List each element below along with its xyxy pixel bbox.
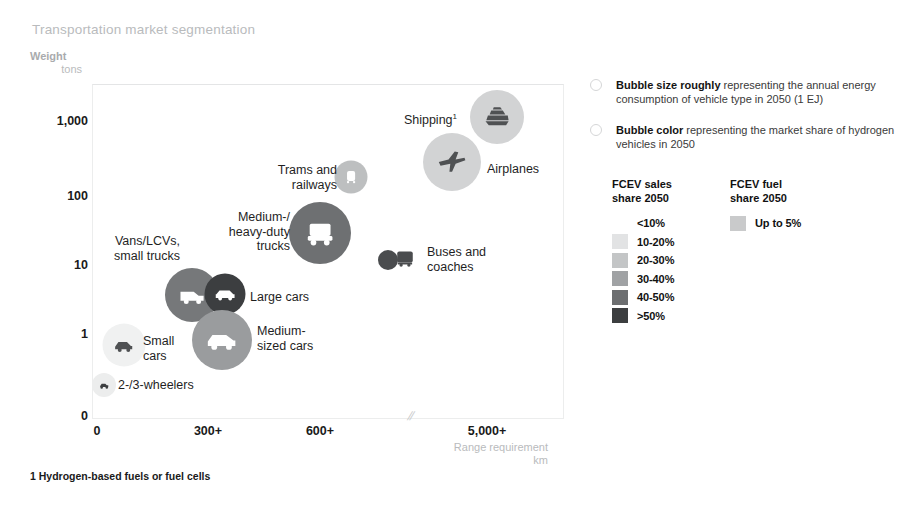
fcev-fuel-heading: FCEV fuel share 2050 — [730, 178, 860, 205]
x-axis-title-unit: km — [398, 454, 548, 467]
legend-scale-row: <10% — [612, 214, 727, 233]
bubble-truck[interactable] — [289, 202, 351, 264]
ship-icon — [483, 103, 511, 131]
bubble-label: Medium- sized cars — [257, 324, 313, 353]
bus-icon-marker — [394, 247, 416, 273]
bubble-label: 2-/3-wheelers — [118, 378, 194, 393]
bubble-ship[interactable] — [470, 90, 524, 144]
tram-icon — [342, 168, 359, 185]
legend-note-size: Bubble size roughly representing the ann… — [588, 78, 908, 106]
bullet-icon — [590, 79, 602, 91]
bubble-small-car[interactable] — [103, 324, 146, 367]
x-axis-tick: 600+ — [306, 424, 334, 438]
bubble-scooter[interactable] — [92, 373, 116, 397]
legend-scale-row: 30-40% — [612, 270, 727, 289]
scooter-icon — [98, 379, 110, 391]
bullet-icon — [590, 124, 602, 136]
legend-swatch — [612, 308, 628, 323]
fcev-sales-scale: FCEV sales share 2050 <10%10-20%20-30%30… — [612, 178, 727, 325]
legend-scale-row: 20-30% — [612, 251, 727, 270]
bubble-label: Medium-/ heavy-duty trucks — [229, 210, 290, 254]
legend-swatch — [612, 290, 628, 305]
y-axis-ticks: 1,0001001010 — [10, 0, 88, 420]
bubble-tram[interactable] — [335, 161, 368, 194]
legend-scale-row: >50% — [612, 307, 727, 326]
bubble-label: Buses and coaches — [427, 245, 486, 274]
y-axis-tick: 10 — [24, 258, 88, 272]
x-axis-tick: 0 — [94, 424, 101, 438]
legend-swatch — [612, 271, 628, 286]
axis-break-marker: // — [407, 409, 414, 423]
y-axis-tick: 100 — [24, 189, 88, 203]
footnote: 1 Hydrogen-based fuels or fuel cells — [30, 470, 210, 482]
legend-scale-row: Up to 5% — [730, 214, 860, 233]
large-car-icon — [214, 283, 235, 304]
legend: Bubble size roughly representing the ann… — [588, 78, 908, 168]
legend-scale-label: 10-20% — [637, 236, 674, 248]
y-axis-tick: 1 — [24, 327, 88, 341]
legend-scale-label: >50% — [637, 310, 665, 322]
x-axis-title: Range requirement km — [398, 441, 548, 467]
bus-icon — [394, 247, 416, 269]
truck-icon — [304, 217, 336, 249]
bubble-label: Shipping1 — [404, 110, 457, 128]
bubble-large-car[interactable] — [205, 274, 246, 315]
footnote-marker: 1 — [453, 112, 457, 121]
legend-scale-row: 40-50% — [612, 288, 727, 307]
legend-swatch — [612, 234, 628, 249]
legend-swatch — [730, 216, 746, 231]
legend-swatch — [612, 253, 628, 268]
x-axis-tick: 300+ — [194, 424, 222, 438]
fcev-fuel-scale: FCEV fuel share 2050 Up to 5% — [730, 178, 860, 233]
chart-page: Transportation market segmentation Weigh… — [0, 0, 920, 505]
legend-scale-label: Up to 5% — [755, 217, 801, 229]
y-axis-tick: 0 — [24, 409, 88, 423]
medium-car-icon — [206, 324, 237, 355]
bubble-label: Small cars — [143, 334, 174, 363]
fcev-sales-rows: <10%10-20%20-30%30-40%40-50%>50% — [612, 214, 727, 325]
bubble-medium-car[interactable] — [192, 310, 252, 370]
fcev-sales-heading: FCEV sales share 2050 — [612, 178, 727, 205]
legend-scale-label: 20-30% — [637, 254, 674, 266]
bubble-label: Vans/LCVs, small trucks — [114, 234, 180, 263]
legend-scale-label: 40-50% — [637, 291, 674, 303]
bubble-airplane[interactable] — [423, 133, 481, 191]
legend-note-color: Bubble color representing the market sha… — [588, 123, 908, 151]
van-icon — [178, 281, 206, 309]
legend-swatch — [612, 216, 628, 231]
x-axis-tick: 5,000+ — [468, 424, 507, 438]
y-axis-tick: 1,000 — [24, 114, 88, 128]
bubble-label: Large cars — [250, 290, 309, 305]
x-axis-title-label: Range requirement — [454, 441, 548, 453]
legend-scale-row: 10-20% — [612, 233, 727, 252]
bubble-label: Trams and railways — [278, 163, 337, 192]
small-car-icon — [113, 334, 135, 356]
legend-note-size-bold: Bubble size roughly — [616, 79, 721, 91]
legend-scale-label: <10% — [637, 217, 665, 229]
legend-note-color-bold: Bubble color — [616, 124, 683, 136]
fcev-fuel-rows: Up to 5% — [730, 214, 860, 233]
bubble-label: Airplanes — [487, 162, 539, 177]
airplane-icon — [437, 147, 467, 177]
legend-scale-label: 30-40% — [637, 273, 674, 285]
